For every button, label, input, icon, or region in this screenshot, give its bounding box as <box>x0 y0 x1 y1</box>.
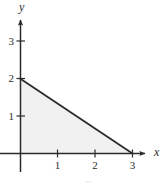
figure-container: y x 1 2 3 1 2 3 <box>0 0 166 186</box>
y-axis-label: y <box>19 1 24 13</box>
scan-artifact-speck <box>86 181 92 183</box>
x-axis-label: x <box>154 146 159 158</box>
x-tick-label-1: 1 <box>51 160 65 171</box>
y-tick-label-1: 1 <box>0 111 14 122</box>
x-tick-label-3: 3 <box>126 160 140 171</box>
coordinate-plane-svg <box>0 0 166 186</box>
x-tick-label-2: 2 <box>88 160 102 171</box>
y-tick-label-3: 3 <box>0 36 14 47</box>
y-tick-label-2: 2 <box>0 73 14 84</box>
